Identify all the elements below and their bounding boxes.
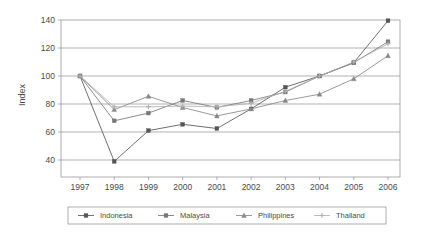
line-chart: Index 1401201008060401997199819992000200… (0, 0, 426, 237)
legend-label: Malaysia (180, 211, 210, 220)
chart-legend: IndonesiaMalaysiaPhilippinesThailand (0, 0, 426, 237)
legend-label: Thailand (336, 211, 365, 220)
legend-label: Indonesia (100, 211, 133, 220)
data-point-marker (164, 214, 168, 218)
legend-label: Philippines (258, 211, 295, 220)
data-point-marker (84, 214, 88, 218)
